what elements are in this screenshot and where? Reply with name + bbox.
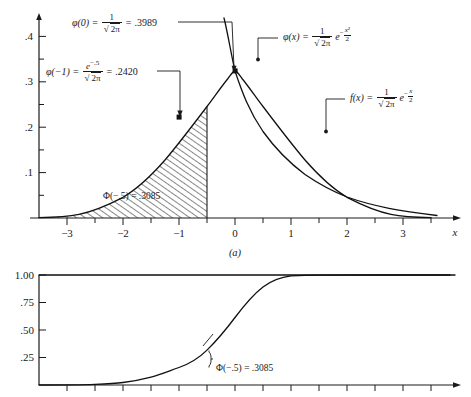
leader-phi-x	[258, 38, 278, 58]
x-axis-ticks-b	[67, 385, 431, 391]
annotation-phi-zero-den: 2π	[110, 23, 120, 34]
annotation-phi-minus-one-value: .2420	[115, 66, 138, 77]
annotation-phi-x-num: 1	[312, 26, 332, 37]
y-axis-ticks-b	[39, 275, 46, 358]
y-tick-label-a-1: .2	[25, 121, 33, 133]
annotation-f-x-num: 1	[377, 87, 397, 98]
leader-phi-zero	[178, 22, 234, 68]
leader-dot-f-x	[324, 130, 328, 134]
y-tick-label-a-0: .1	[25, 166, 33, 178]
annotation-phi-x-lhs: φ(x)	[283, 31, 300, 42]
annotation-f-x-den: 2π	[384, 98, 394, 109]
annotation-phi-zero-radical: √	[104, 24, 109, 34]
leader-phi-minus-one	[157, 71, 180, 112]
annotation-phi-x-eq1: =	[303, 31, 309, 42]
y-tick-label-b-2: .75	[20, 296, 34, 308]
annotation-f-x-radical: √	[379, 99, 384, 109]
annotation-phi-minus-one-radical: √	[85, 73, 90, 83]
cdf-pointer-line	[203, 334, 213, 346]
annotation-phi-minus-one-eq2: =	[107, 66, 113, 77]
y-axis-ticks-a	[39, 36, 46, 195]
annotation-phi-zero-lhs: φ(0)	[72, 17, 89, 28]
standard-normal-density-chart: .1 .2 .3 .4 −3 −2 −1 0 1 2 3 x	[0, 0, 471, 260]
annotation-phi-zero-value: .3989	[134, 17, 157, 28]
shaded-probability-area	[30, 95, 215, 223]
x-tick-label-a-3: 0	[232, 227, 238, 239]
x-tick-label-a-4: 1	[288, 227, 294, 239]
y-tick-label-a-2: .3	[25, 75, 34, 87]
annotation-phi-zero-eq2: =	[126, 17, 132, 28]
annotation-phi-x-exp-den: 2	[344, 36, 351, 44]
x-axis-label-a: x	[452, 226, 458, 238]
annotation-phi-x: φ(x)=1√2πe−x²2	[283, 26, 351, 49]
area-label-panel-b: Φ(−.5) = .3085	[216, 363, 273, 373]
area-label-panel-a: Φ(−.5) = .3085	[103, 191, 160, 201]
standard-normal-cdf-chart: .25 .50 .75 1.00	[0, 260, 471, 397]
panel-a-caption: (a)	[229, 247, 242, 259]
annotation-phi-zero-eq1: =	[92, 17, 98, 28]
leader-dot-phi-x	[256, 58, 260, 62]
y-axis-arrow-a	[36, 13, 42, 20]
annotation-phi-zero-num: 1	[102, 12, 122, 23]
x-tick-label-a-1: −2	[117, 227, 129, 239]
x-tick-label-a-2: −1	[173, 227, 185, 239]
x-axis-ticks-a	[67, 218, 431, 225]
annotation-phi-minus-one-exp: −.5	[90, 59, 99, 67]
x-tick-label-a-0: −3	[61, 227, 73, 239]
annotation-f-x-exp-den: 2	[408, 97, 414, 105]
annotation-f-x: f(x)=1√2πe−x2	[350, 87, 413, 110]
annotation-phi-zero: φ(0)=1√2π=.3989	[72, 12, 157, 35]
annotation-f-x-lhs: f(x)	[350, 92, 364, 103]
y-tick-label-b-3: 1.00	[15, 269, 35, 281]
y-tick-label-b-1: .50	[20, 324, 34, 336]
leader-f-x	[326, 99, 345, 130]
cdf-value-brace	[209, 351, 213, 368]
y-tick-label-a-3: .4	[25, 30, 34, 42]
annotation-phi-minus-one: φ(−1)=e−.5√2π=.2420	[46, 61, 138, 84]
marker-phi-minus-one	[177, 115, 182, 120]
x-tick-label-a-6: 3	[400, 227, 406, 239]
figure-container: .1 .2 .3 .4 −3 −2 −1 0 1 2 3 x	[0, 0, 471, 397]
annotation-phi-x-den: 2π	[320, 37, 330, 48]
annotation-phi-x-radical: √	[314, 38, 319, 48]
x-axis-arrow-b	[453, 382, 461, 388]
annotation-phi-minus-one-lhs: φ(−1)	[46, 66, 70, 77]
y-tick-label-b-0: .25	[20, 351, 34, 363]
x-tick-label-a-5: 2	[344, 227, 350, 239]
annotation-phi-minus-one-eq1: =	[73, 66, 79, 77]
annotation-phi-minus-one-den: 2π	[91, 72, 101, 83]
x-axis-arrow-a	[453, 215, 461, 221]
annotation-f-x-eq1: =	[367, 92, 373, 103]
